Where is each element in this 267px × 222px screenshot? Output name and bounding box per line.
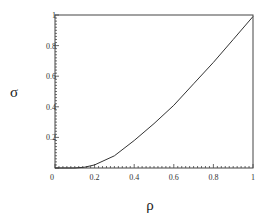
x-tick-label: 0.2 [90,173,100,182]
x-axis-label: ρ [146,197,154,213]
y-tick-label: 0.2 [46,133,56,142]
x-tick-label: 0 [50,173,54,182]
plot-frame [55,15,253,168]
y-tick-label: 1 [52,11,56,20]
x-tick-label: 1 [251,173,255,182]
y-tick-label: 0.8 [46,42,56,51]
x-tick-label: 0.8 [208,173,218,182]
y-tick-label: 0.6 [46,72,56,81]
x-tick-label: 0.6 [169,173,179,182]
x-tick-labels: 00.20.40.60.81 [50,173,255,182]
chart: 00.20.40.60.81 0.20.40.60.81 ρ σ [0,0,267,222]
axis-ticks [55,15,253,168]
y-tick-label: 0.4 [46,103,56,112]
x-tick-label: 0.4 [129,173,139,182]
y-axis-label: σ [10,84,18,100]
data-line [55,17,253,169]
